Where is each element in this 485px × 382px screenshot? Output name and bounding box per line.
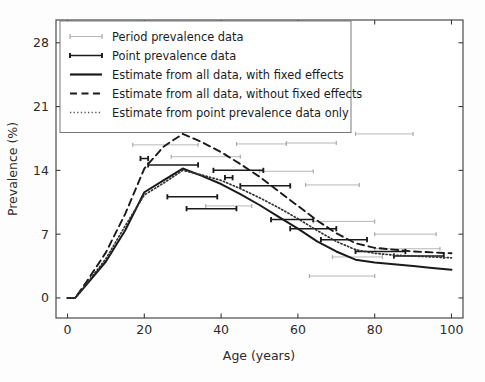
chart-legend: Period prevalence dataPoint prevalence d…: [60, 21, 362, 133]
x-tick-label: 80: [367, 322, 383, 337]
x-tick-label: 40: [213, 322, 229, 337]
x-tick-label: 0: [64, 322, 72, 337]
y-tick-label: 7: [41, 227, 49, 242]
legend-item-label: Estimate from all data, with fixed effec…: [112, 68, 344, 82]
legend-item-label: Period prevalence data: [112, 30, 243, 44]
legend-item: Estimate from point prevalence data only: [70, 106, 349, 120]
y-tick-label: 21: [33, 99, 49, 114]
y-tick-label: 14: [33, 163, 49, 178]
chart-figure: 020406080100 07142128 Age (years) Preval…: [0, 0, 485, 382]
x-tick-label: 20: [136, 322, 152, 337]
legend-item-label: Estimate from point prevalence data only: [112, 106, 349, 120]
legend-item: Estimate from all data, with fixed effec…: [70, 68, 344, 82]
y-axis-title: Prevalence (%): [5, 122, 20, 216]
x-tick-label: 60: [290, 322, 306, 337]
legend-item: Estimate from all data, without fixed ef…: [70, 87, 362, 101]
x-tick-label: 100: [440, 322, 464, 337]
prevalence-line-chart: 020406080100 07142128 Age (years) Preval…: [0, 0, 485, 382]
x-axis-title: Age (years): [223, 348, 295, 363]
legend-item-label: Point prevalence data: [112, 49, 236, 63]
y-tick-label: 0: [41, 290, 49, 305]
y-tick-label: 28: [33, 35, 49, 50]
legend-item-label: Estimate from all data, without fixed ef…: [112, 87, 362, 101]
